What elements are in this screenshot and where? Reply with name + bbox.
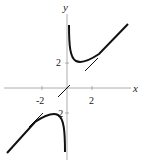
asymptote-center [58,85,70,97]
x-tick-label-neg: -2 [36,95,44,106]
y-tick-label-pos: 2 [56,57,61,68]
x-axis-label: x [132,82,138,94]
y-axis-label: y [62,1,68,13]
x-tick-label-pos: 2 [89,95,94,106]
function-graph: y x -2 2 2 -2 [0,0,144,164]
curve-upper-branch [69,24,128,62]
